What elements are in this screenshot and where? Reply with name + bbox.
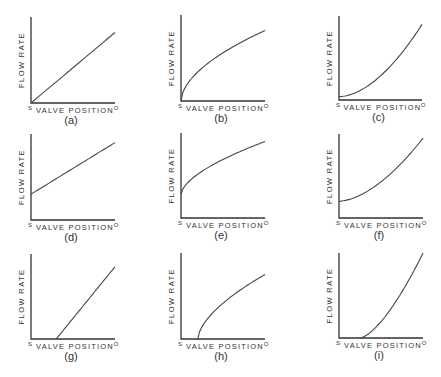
panel-caption: (f): [374, 229, 384, 241]
panel-f: FLOW RATESOVALVE POSITION(f): [325, 134, 427, 241]
flow-curve-linear: [31, 33, 115, 104]
y-axis-label: FLOW RATE: [17, 32, 26, 88]
flow-curve-concave: [181, 31, 265, 102]
axes: [339, 253, 423, 338]
panel-g: FLOW RATESOVALVE POSITION(g): [17, 254, 119, 362]
axes: [31, 17, 115, 103]
flow-curve-convex-offset: [339, 138, 423, 201]
panel-b: FLOW RATESOVALVE POSITION(b): [167, 15, 269, 124]
panel-caption: (e): [214, 229, 227, 241]
panel-caption: (h): [214, 350, 227, 362]
y-axis-label: FLOW RATE: [167, 148, 176, 204]
axes: [339, 134, 423, 218]
x-end-label: O: [114, 222, 119, 228]
x-end-label: O: [264, 341, 269, 347]
panel-caption: (b): [214, 112, 227, 124]
flow-curve-linear-deadband: [56, 267, 115, 339]
panel-a: FLOW RATESOVALVE POSITION(a): [17, 17, 119, 126]
panel-i: FLOW RATESOVALVE POSITION(i): [325, 253, 427, 361]
panel-caption: (i): [374, 349, 384, 361]
flow-curve-convex: [339, 24, 422, 96]
axes: [31, 254, 115, 339]
x-start-label: S: [178, 220, 182, 226]
x-end-label: O: [264, 220, 269, 226]
x-start-label: S: [28, 222, 32, 228]
panel-caption: (c): [372, 111, 385, 123]
y-axis-label: FLOW RATE: [17, 149, 26, 205]
flow-curve-concave-offset: [181, 142, 265, 195]
axes: [181, 15, 265, 101]
y-axis-label: FLOW RATE: [325, 30, 334, 86]
x-start-label: S: [336, 102, 340, 108]
x-end-label: O: [422, 340, 427, 346]
y-axis-label: FLOW RATE: [167, 268, 176, 324]
panel-caption: (a): [64, 114, 77, 126]
x-end-label: O: [114, 105, 119, 111]
panel-h: FLOW RATESOVALVE POSITION(h): [167, 253, 269, 362]
x-start-label: S: [336, 340, 340, 346]
x-start-label: S: [28, 341, 32, 347]
x-start-label: S: [178, 341, 182, 347]
axes: [31, 134, 115, 220]
x-start-label: S: [336, 220, 340, 226]
x-end-label: O: [114, 341, 119, 347]
flow-curve-concave-deadband: [198, 275, 265, 340]
axes: [339, 16, 422, 100]
x-end-label: O: [264, 103, 269, 109]
y-axis-label: FLOW RATE: [325, 268, 334, 324]
panel-caption: (g): [64, 350, 77, 362]
axes: [181, 133, 265, 218]
y-axis-label: FLOW RATE: [17, 269, 26, 325]
y-axis-label: FLOW RATE: [167, 30, 176, 86]
flow-curve-linear-offset: [31, 143, 115, 195]
panel-caption: (d): [64, 231, 77, 243]
flow-curve-convex-deadband: [360, 253, 423, 338]
panel-d: FLOW RATESOVALVE POSITION(d): [17, 134, 119, 243]
x-start-label: S: [178, 103, 182, 109]
x-end-label: O: [421, 102, 426, 108]
x-end-label: O: [422, 220, 427, 226]
panel-e: FLOW RATESOVALVE POSITION(e): [167, 133, 269, 241]
y-axis-label: FLOW RATE: [325, 148, 334, 204]
x-start-label: S: [28, 105, 32, 111]
panel-c: FLOW RATESOVALVE POSITION(c): [325, 16, 426, 123]
valve-characteristics-figure: FLOW RATESOVALVE POSITION(a)FLOW RATESOV…: [0, 0, 441, 377]
axes: [181, 253, 265, 339]
